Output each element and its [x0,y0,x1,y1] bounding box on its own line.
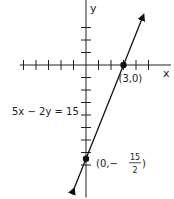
point-label-close: ) [142,158,146,169]
fraction-numerator: 15 [130,153,140,162]
point-label: (0,− [96,158,118,169]
data-point [83,156,89,162]
y-axis-label: y [90,2,97,15]
coordinate-plane: x y 5x − 2y = 15 (3,0)(0,−152) [0,0,174,199]
x-axis-label: x [163,67,170,80]
data-point [120,62,126,68]
equation-label: 5x − 2y = 15 [12,106,79,117]
fraction-denominator: 2 [132,166,137,175]
point-label: (3,0) [119,73,143,84]
